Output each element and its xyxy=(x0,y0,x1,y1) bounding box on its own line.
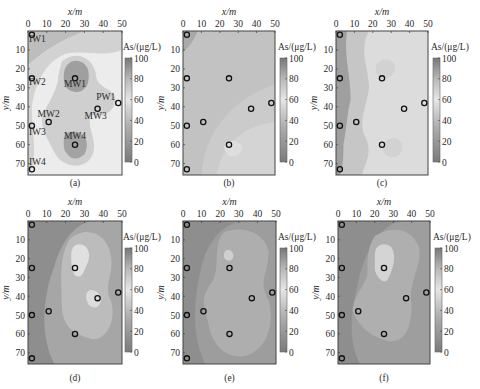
y-tick-label: 50 xyxy=(326,311,336,321)
x-tick-label: 10 xyxy=(197,209,207,219)
y-tick-label: 40 xyxy=(171,102,181,112)
contour-figure: x/m01020304050y/m10203040506070IW1IW2MW1… xyxy=(0,0,480,389)
colorbar-tick-label: 100 xyxy=(134,244,149,254)
colorbar-tick-label: 40 xyxy=(442,116,452,126)
contour-field xyxy=(28,221,122,364)
colorbar-label: As/(μg/L) xyxy=(431,42,469,53)
colorbar xyxy=(435,248,442,352)
x-axis-label: x/m xyxy=(67,196,82,207)
well-label: PW1 xyxy=(96,92,115,102)
y-tick-label: 10 xyxy=(16,45,26,55)
colorbar-tick-label: 0 xyxy=(442,158,447,168)
x-tick-label: 40 xyxy=(407,209,417,219)
colorbar-tick-label: 80 xyxy=(289,264,299,274)
colorbar-tick-label: 20 xyxy=(444,327,454,337)
x-tick-label: 10 xyxy=(197,19,207,29)
colorbar-label: As/(μg/L) xyxy=(123,232,161,243)
x-tick-label: 30 xyxy=(233,19,243,29)
y-tick-label: 10 xyxy=(16,235,26,245)
x-tick-label: 10 xyxy=(352,209,362,219)
colorbar-tick-label: 0 xyxy=(289,158,294,168)
panel-caption: (f) xyxy=(379,373,389,384)
x-tick-label: 50 xyxy=(117,19,127,29)
x-tick-label: 0 xyxy=(181,209,186,219)
y-tick-label: 30 xyxy=(16,273,26,283)
colorbar-tick-label: 100 xyxy=(442,54,457,64)
x-tick-label: 20 xyxy=(215,209,225,219)
well-label: MW4 xyxy=(64,131,86,141)
colorbar-tick-label: 20 xyxy=(134,137,144,147)
y-tick-label: 10 xyxy=(171,45,181,55)
y-tick-label: 20 xyxy=(16,64,26,74)
y-tick-label: 20 xyxy=(171,64,181,74)
well-label: IW2 xyxy=(29,77,46,87)
x-tick-label: 30 xyxy=(80,209,90,219)
y-axis-label: y/m xyxy=(0,96,11,111)
x-tick-label: 20 xyxy=(61,209,71,219)
x-tick-label: 40 xyxy=(253,209,263,219)
x-tick-label: 50 xyxy=(425,209,435,219)
colorbar-tick-label: 60 xyxy=(442,95,452,105)
x-tick-label: 50 xyxy=(270,19,280,29)
x-tick-label: 0 xyxy=(181,19,186,29)
y-axis-label: y/m xyxy=(0,285,11,300)
y-tick-label: 60 xyxy=(324,140,334,150)
panel-f: x/m01020304050y/m10203040506070As/(μg/L)… xyxy=(310,196,471,384)
x-tick-label: 30 xyxy=(388,209,398,219)
contour-field xyxy=(183,31,275,175)
x-tick-label: 50 xyxy=(117,209,127,219)
y-tick-label: 60 xyxy=(171,140,181,150)
y-tick-label: 10 xyxy=(324,45,334,55)
panel-caption: (b) xyxy=(223,178,234,189)
y-tick-label: 50 xyxy=(171,311,181,321)
x-tick-label: 20 xyxy=(368,19,378,29)
y-tick-label: 40 xyxy=(16,102,26,112)
colorbar-tick-label: 100 xyxy=(289,244,304,254)
colorbar-tick-label: 60 xyxy=(444,285,454,295)
x-tick-label: 10 xyxy=(42,209,52,219)
y-tick-label: 70 xyxy=(324,159,334,169)
panel-b: x/m01020304050y/m10203040506070As/(μg/L)… xyxy=(155,6,316,189)
colorbar-tick-label: 0 xyxy=(289,348,294,358)
colorbar-tick-label: 60 xyxy=(134,285,144,295)
x-tick-label: 0 xyxy=(336,209,341,219)
colorbar-tick-label: 40 xyxy=(289,306,299,316)
x-axis-label: x/m xyxy=(67,6,82,17)
y-tick-label: 20 xyxy=(171,254,181,264)
colorbar-tick-label: 100 xyxy=(444,244,459,254)
panel-c: x/m01020304050y/m10203040506070As/(μg/L)… xyxy=(308,6,469,189)
y-axis-label: y/m xyxy=(155,285,166,300)
x-tick-label: 40 xyxy=(98,19,108,29)
colorbar-label: As/(μg/L) xyxy=(123,42,161,53)
colorbar-tick-label: 0 xyxy=(134,158,139,168)
colorbar-tick-label: 40 xyxy=(289,116,299,126)
well-label: IW1 xyxy=(29,34,46,44)
y-tick-label: 60 xyxy=(16,140,26,150)
y-axis-label: y/m xyxy=(308,96,319,111)
panel-caption: (a) xyxy=(70,178,81,189)
y-tick-label: 70 xyxy=(171,348,181,358)
contour-field xyxy=(28,31,122,175)
x-tick-label: 30 xyxy=(386,19,396,29)
x-tick-label: 10 xyxy=(42,19,52,29)
colorbar-tick-label: 60 xyxy=(289,95,299,105)
y-tick-label: 60 xyxy=(171,329,181,339)
panel-caption: (e) xyxy=(224,373,235,384)
x-tick-label: 40 xyxy=(98,209,108,219)
colorbar-tick-label: 80 xyxy=(289,74,299,84)
x-tick-label: 30 xyxy=(80,19,90,29)
well-label: MW1 xyxy=(64,79,86,89)
panel-e: x/m01020304050y/m10203040506070As/(μg/L)… xyxy=(155,196,316,384)
y-tick-label: 70 xyxy=(16,159,26,169)
y-tick-label: 50 xyxy=(16,311,26,321)
colorbar-tick-label: 20 xyxy=(442,137,452,147)
x-tick-label: 20 xyxy=(61,19,71,29)
colorbar-tick-label: 80 xyxy=(134,74,144,84)
well-label: MW3 xyxy=(84,111,106,121)
colorbar-tick-label: 20 xyxy=(134,327,144,337)
y-tick-label: 20 xyxy=(324,64,334,74)
y-tick-label: 70 xyxy=(16,348,26,358)
colorbar xyxy=(125,58,132,162)
x-tick-label: 40 xyxy=(405,19,415,29)
panel-caption: (c) xyxy=(377,178,388,189)
